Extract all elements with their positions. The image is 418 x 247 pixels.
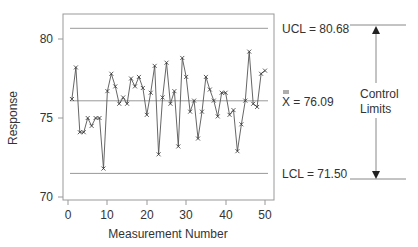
control-label-line1: Control [360, 87, 399, 101]
x-tick-label: 30 [179, 208, 193, 222]
x-axis: 0 10 20 30 40 50 [65, 200, 272, 222]
data-series [70, 50, 267, 171]
svg-text:X = 76.09: X = 76.09 [282, 95, 334, 109]
x-axis-label: Measurement Number [108, 227, 227, 241]
arrow-up-icon [372, 26, 380, 34]
x-marker-icon [133, 84, 137, 88]
y-tick-label: 75 [40, 111, 54, 125]
y-axis-label: Response [6, 91, 20, 145]
center-value: = 76.09 [290, 95, 334, 109]
x-tick-label: 0 [65, 208, 72, 222]
y-axis: 80 75 70 [40, 32, 63, 204]
x-marker-icon [121, 95, 125, 99]
x-marker-icon [137, 75, 141, 79]
control-label-line2: Limits [360, 102, 391, 116]
x-tick-label: 10 [100, 208, 114, 222]
control-chart: 80 75 70 Response 0 10 20 30 40 50 Measu… [0, 0, 418, 247]
plot-frame [63, 14, 274, 200]
x-marker-icon [90, 124, 94, 128]
arrow-down-icon [372, 171, 380, 179]
control-limits-annotation: Control Limits [350, 25, 406, 179]
x-tick-label: 40 [219, 208, 233, 222]
series-line [72, 52, 265, 169]
center-label: X = 76.09 [282, 91, 334, 109]
y-tick-label: 70 [40, 190, 54, 204]
x-tick-label: 50 [258, 208, 272, 222]
x-tick-label: 20 [140, 208, 154, 222]
y-tick-label: 80 [40, 32, 54, 46]
x-marker-icon [263, 69, 267, 73]
xbar-symbol: X [282, 95, 290, 109]
lcl-label: LCL = 71.50 [282, 167, 348, 181]
ucl-label: UCL = 80.68 [282, 22, 350, 36]
